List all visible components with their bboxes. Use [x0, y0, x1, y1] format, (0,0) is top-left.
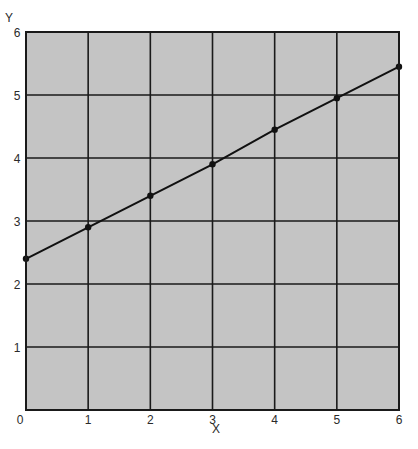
y-tick-label: 4 [14, 152, 21, 166]
x-tick-label: 2 [147, 413, 154, 427]
x-tick-label: 6 [396, 413, 403, 427]
x-tick-label: 0 [17, 413, 24, 427]
data-point [209, 161, 215, 167]
y-axis-ticks: 123456 [14, 26, 21, 355]
line-chart: 0123456 123456 X Y [0, 0, 418, 449]
data-point [85, 224, 91, 230]
y-tick-label: 2 [14, 278, 21, 292]
x-tick-label: 4 [271, 413, 278, 427]
y-axis-label: Y [5, 11, 13, 25]
x-axis-ticks: 0123456 [17, 413, 403, 427]
y-tick-label: 3 [14, 215, 21, 229]
data-point [334, 95, 340, 101]
y-tick-label: 5 [14, 89, 21, 103]
y-tick-label: 1 [14, 341, 21, 355]
y-tick-label: 6 [14, 26, 21, 40]
x-axis-label: X [212, 422, 220, 436]
x-tick-label: 1 [85, 413, 92, 427]
data-point [147, 193, 153, 199]
x-tick-label: 5 [333, 413, 340, 427]
data-point [271, 126, 277, 132]
